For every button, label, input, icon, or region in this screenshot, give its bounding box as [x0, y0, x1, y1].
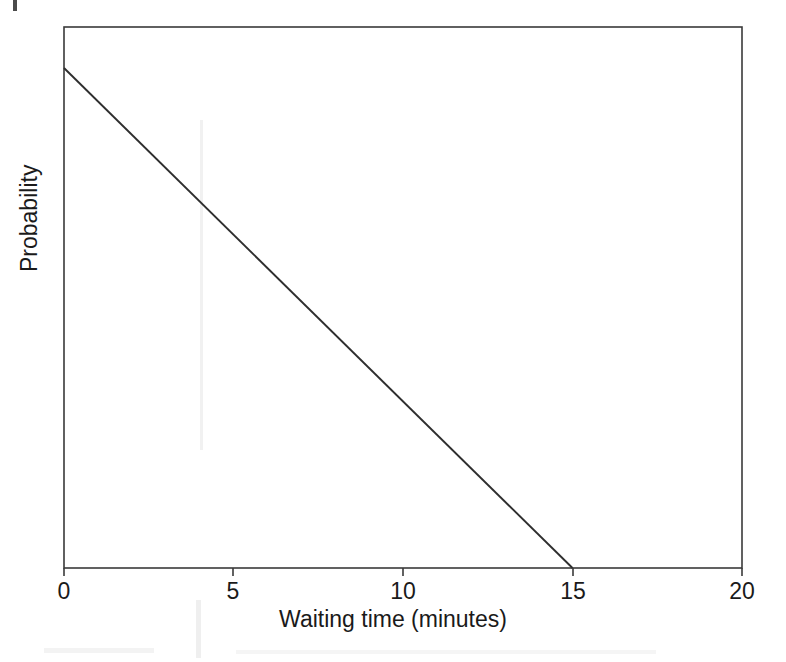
x-tick-label-15: 15	[560, 580, 586, 603]
figure-canvas: 0 5 10 15 20 Waiting time (minutes) Prob…	[0, 0, 786, 662]
y-axis-title: Probability	[18, 248, 41, 272]
x-tick-label-10: 10	[390, 580, 416, 603]
plot-frame	[64, 27, 742, 568]
x-axis-title: Waiting time (minutes)	[0, 608, 786, 631]
data-series-line	[64, 68, 573, 568]
x-tick-label-0: 0	[58, 580, 71, 603]
x-tick-label-20: 20	[729, 580, 755, 603]
x-tick-label-5: 5	[227, 580, 240, 603]
plot-area	[0, 0, 786, 662]
